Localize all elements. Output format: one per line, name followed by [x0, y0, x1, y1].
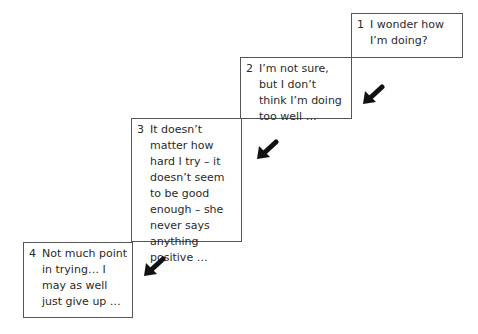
step-text: Not much point in trying… I may as well … — [42, 246, 128, 310]
step-text: It doesn’t matter how hard I try – it do… — [150, 122, 237, 266]
step-1-box: 1 I wonder how I’m doing? — [351, 13, 463, 58]
arrow-down-left-icon — [361, 82, 385, 106]
step-number: 1 — [357, 17, 364, 33]
step-text: I’m not sure, but I don’t think I’m doin… — [259, 61, 347, 125]
arrow-down-left-icon — [255, 137, 279, 161]
step-4-box: 4 Not much point in trying… I may as wel… — [23, 242, 133, 318]
step-text: I wonder how I’m doing? — [370, 17, 458, 49]
step-number: 4 — [29, 246, 36, 262]
step-3-box: 3 It doesn’t matter how hard I try – it … — [131, 118, 242, 242]
step-number: 2 — [246, 61, 253, 77]
step-number: 3 — [137, 122, 144, 138]
step-2-box: 2 I’m not sure, but I don’t think I’m do… — [240, 57, 352, 119]
arrow-down-left-icon — [142, 254, 166, 278]
